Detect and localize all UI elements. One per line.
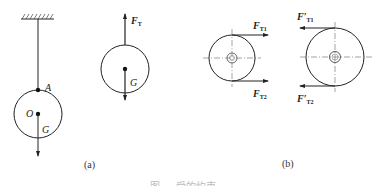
label-ft1: FT1 — [252, 20, 267, 32]
label-g: G — [42, 124, 49, 135]
label-o: O — [26, 108, 33, 119]
label-ft2-prime: F′T2 — [296, 93, 314, 105]
label-ft2: FT2 — [252, 88, 267, 100]
panel-label-b: (b) — [282, 158, 294, 170]
label-ft: FT — [130, 15, 142, 27]
label-g: G — [130, 77, 137, 88]
pulley-reaction-tensions: F′T1 F′T2 — [296, 11, 372, 105]
ball-free-body: FT G — [101, 14, 149, 100]
ceiling-support — [21, 14, 54, 19]
point-a-dot — [36, 88, 40, 92]
label-ft1-prime: F′T1 — [296, 11, 314, 23]
suspended-ball: A O G — [14, 14, 62, 156]
constraint-diagram: A O G FT G (a) FT1 FT2 F′T1 F′T2 (b) — [0, 0, 383, 186]
panel-label-a: (a) — [84, 159, 95, 171]
figure-caption: 图 … 受的约束 — [150, 180, 216, 186]
label-a: A — [44, 82, 52, 93]
pulley-tensions: FT1 FT2 — [203, 20, 268, 100]
